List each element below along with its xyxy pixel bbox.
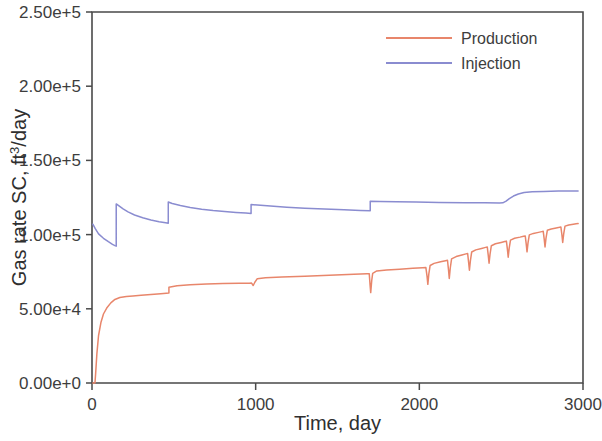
data-series-group xyxy=(93,191,578,383)
x-tick-label: 3000 xyxy=(564,395,602,414)
y-tick-label: 5.00e+4 xyxy=(19,300,81,319)
x-tick-label: 0 xyxy=(87,395,96,414)
chart-legend: ProductionInjection xyxy=(386,30,538,72)
x-axis-title: Time, day xyxy=(294,412,381,434)
y-tick-label: 0.00e+0 xyxy=(19,374,81,393)
gas-rate-chart: 0.00e+05.00e+41.00e+51.50e+52.00e+52.50e… xyxy=(0,0,602,441)
y-tick-label: 2.50e+5 xyxy=(19,3,81,22)
x-axis-ticks: 0100020003000 xyxy=(87,383,602,414)
y-axis-ticks: 0.00e+05.00e+41.00e+51.50e+52.00e+52.50e… xyxy=(19,3,92,393)
series-line-injection xyxy=(93,191,578,246)
series-line-production xyxy=(93,224,578,383)
x-tick-label: 1000 xyxy=(237,395,275,414)
y-axis-title: Gas rate SC, ft3/day xyxy=(7,109,31,286)
chart-canvas: 0.00e+05.00e+41.00e+51.50e+52.00e+52.50e… xyxy=(0,0,602,441)
y-tick-label: 2.00e+5 xyxy=(19,77,81,96)
legend-label-injection: Injection xyxy=(461,55,521,72)
x-tick-label: 2000 xyxy=(400,395,438,414)
legend-label-production: Production xyxy=(461,30,538,47)
